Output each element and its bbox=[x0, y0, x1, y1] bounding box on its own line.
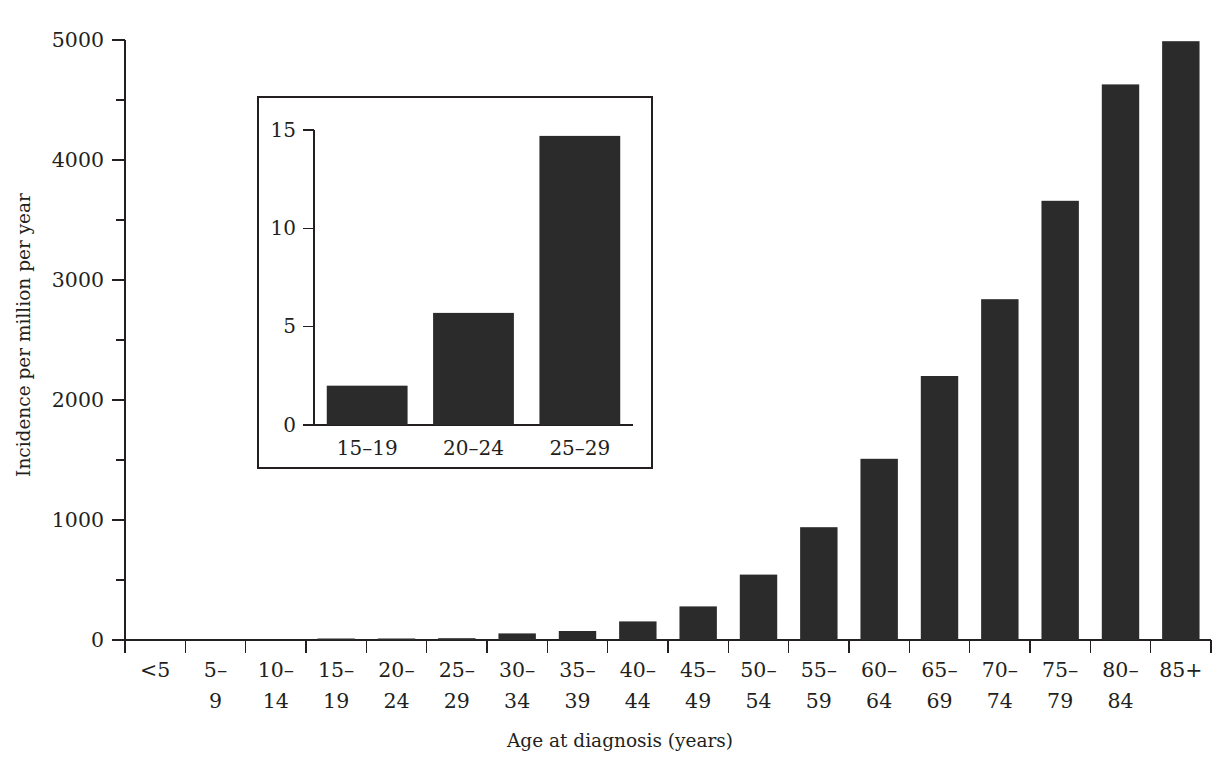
x-tick-label: <5 bbox=[140, 658, 170, 682]
y-tick-label: 4000 bbox=[52, 148, 104, 172]
x-tick-label: 9 bbox=[209, 689, 222, 713]
bar-30_34 bbox=[498, 633, 535, 640]
x-tick-label: 20– bbox=[378, 658, 414, 682]
bar-45_49 bbox=[679, 606, 716, 640]
inset-bar-15_19 bbox=[327, 386, 408, 425]
x-tick-label: 14 bbox=[263, 689, 289, 713]
y-tick-label: 0 bbox=[91, 628, 104, 652]
x-tick-label: 29 bbox=[444, 689, 470, 713]
figure-container: 010002000300040005000<55–910–1415–1920–2… bbox=[0, 0, 1223, 764]
bar-85+ bbox=[1162, 41, 1199, 640]
y-axis-title: Incidence per million per year bbox=[13, 193, 34, 477]
bar-65_69 bbox=[921, 376, 958, 640]
inset-y-tick-label: 10 bbox=[271, 216, 296, 240]
x-tick-label: 79 bbox=[1047, 689, 1073, 713]
x-tick-label: 50– bbox=[740, 658, 776, 682]
x-tick-label: 45– bbox=[680, 658, 716, 682]
x-tick-label: 44 bbox=[625, 689, 651, 713]
x-tick-label: 64 bbox=[866, 689, 892, 713]
x-tick-label: 24 bbox=[383, 689, 409, 713]
x-tick-label: 35– bbox=[559, 658, 595, 682]
x-tick-label: 59 bbox=[806, 689, 832, 713]
x-tick-label: 25– bbox=[439, 658, 475, 682]
x-tick-label: 54 bbox=[745, 689, 771, 713]
x-tick-label: 5– bbox=[204, 658, 227, 682]
x-tick-label: 69 bbox=[926, 689, 952, 713]
bar-15_19 bbox=[317, 639, 354, 641]
inset-chart-group: 05101515–1920–2425–29 bbox=[258, 97, 652, 468]
inset-y-tick-label: 15 bbox=[271, 118, 296, 142]
inset-x-tick-label: 20–24 bbox=[443, 436, 504, 460]
x-tick-label: 80– bbox=[1102, 658, 1138, 682]
inset-bar-25_29 bbox=[539, 136, 620, 425]
inset-y-tick-label: 0 bbox=[283, 413, 296, 437]
bar-75_79 bbox=[1041, 201, 1078, 640]
x-tick-label: 60– bbox=[861, 658, 897, 682]
y-tick-label: 3000 bbox=[52, 268, 104, 292]
x-tick-label: 74 bbox=[987, 689, 1013, 713]
x-tick-label: 55– bbox=[801, 658, 837, 682]
inset-y-tick-label: 5 bbox=[283, 314, 296, 338]
x-tick-label: 40– bbox=[620, 658, 656, 682]
x-tick-label: 85+ bbox=[1159, 658, 1202, 682]
bar-80_84 bbox=[1102, 84, 1139, 640]
x-tick-label: 49 bbox=[685, 689, 711, 713]
y-tick-label: 5000 bbox=[52, 28, 104, 52]
x-tick-label: 39 bbox=[564, 689, 590, 713]
x-tick-label: 84 bbox=[1107, 689, 1133, 713]
inset-x-tick-label: 25–29 bbox=[549, 436, 610, 460]
y-tick-label: 1000 bbox=[52, 508, 104, 532]
incidence-bar-chart: 010002000300040005000<55–910–1415–1920–2… bbox=[0, 0, 1223, 764]
bar-60_64 bbox=[860, 459, 897, 640]
x-tick-label: 70– bbox=[982, 658, 1018, 682]
x-tick-label: 30– bbox=[499, 658, 535, 682]
y-tick-label: 2000 bbox=[52, 388, 104, 412]
x-tick-label: 65– bbox=[921, 658, 957, 682]
x-tick-label: 75– bbox=[1042, 658, 1078, 682]
bar-50_54 bbox=[740, 575, 777, 640]
bar-35_39 bbox=[559, 631, 596, 640]
bar-55_59 bbox=[800, 527, 837, 640]
bar-20_24 bbox=[378, 639, 415, 641]
x-tick-label: 34 bbox=[504, 689, 530, 713]
bar-40_44 bbox=[619, 621, 656, 640]
x-tick-label: 19 bbox=[323, 689, 349, 713]
x-tick-label: 15– bbox=[318, 658, 354, 682]
bar-70_74 bbox=[981, 299, 1018, 640]
inset-bar-20_24 bbox=[433, 313, 514, 425]
x-tick-label: 10– bbox=[258, 658, 294, 682]
x-axis-title: Age at diagnosis (years) bbox=[506, 730, 733, 751]
bar-25_29 bbox=[438, 638, 475, 640]
inset-x-tick-label: 15–19 bbox=[337, 436, 398, 460]
